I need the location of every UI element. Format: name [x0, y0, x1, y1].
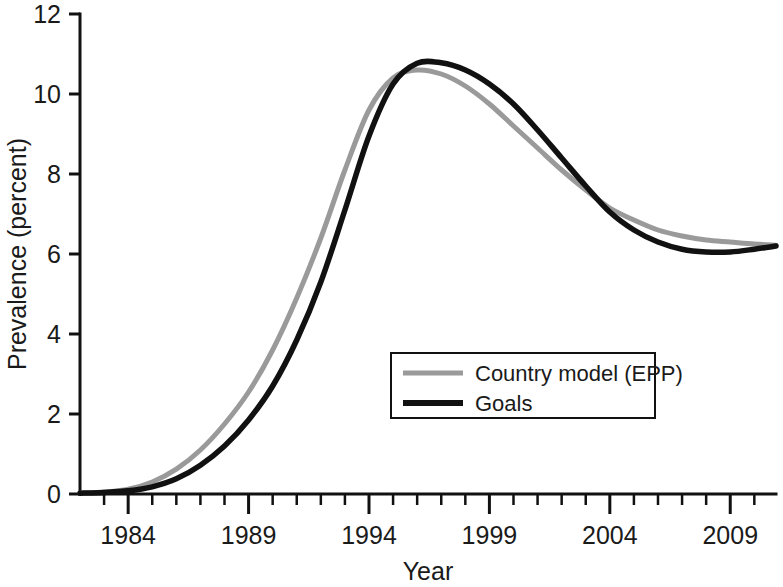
chart-container: Prevalence (percent) Year 024681012 1984…: [0, 0, 783, 587]
y-tick-label: 6: [47, 240, 61, 268]
legend-label: Country model (EPP): [475, 361, 683, 386]
chart-legend: Country model (EPP)Goals: [391, 353, 683, 418]
y-tick-label: 8: [47, 160, 61, 188]
data-series-group: [80, 61, 776, 493]
y-tick-label: 12: [33, 0, 61, 28]
y-axis-ticks: 024681012: [33, 0, 80, 508]
y-tick-label: 10: [33, 80, 61, 108]
y-tick-label: 2: [47, 400, 61, 428]
y-tick-label: 4: [47, 320, 61, 348]
x-tick-label: 1989: [221, 521, 277, 549]
x-tick-label: 2009: [702, 521, 758, 549]
x-axis-title: Year: [403, 557, 454, 585]
x-tick-label: 1984: [100, 521, 156, 549]
y-tick-label: 0: [47, 480, 61, 508]
x-tick-label: 1999: [462, 521, 518, 549]
legend-label: Goals: [475, 391, 532, 416]
y-axis-title: Prevalence (percent): [3, 138, 31, 370]
series-line-goals: [80, 61, 776, 493]
x-tick-label: 1994: [341, 521, 397, 549]
x-axis-ticks: 198419891994199920042009: [100, 494, 758, 549]
x-tick-label: 2004: [582, 521, 638, 549]
prevalence-line-chart: Prevalence (percent) Year 024681012 1984…: [0, 0, 783, 587]
series-line-country-model-epp: [80, 70, 776, 493]
